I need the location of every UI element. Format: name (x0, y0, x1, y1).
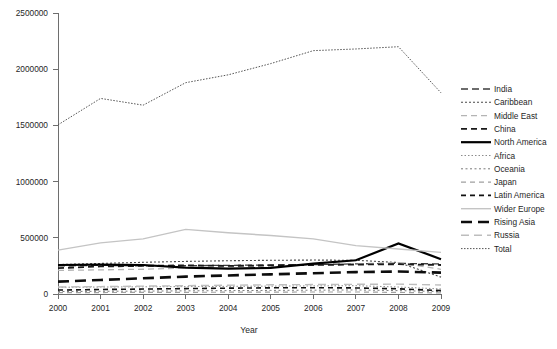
y-tick-label: 2000000 (16, 64, 49, 74)
legend-item-russia[interactable]: Russia (461, 230, 520, 240)
x-tick-label: 2001 (91, 303, 110, 313)
y-tick-label: 0 (43, 289, 48, 299)
legend-label: Caribbean (494, 97, 533, 107)
legend-item-rising-asia[interactable]: Rising Asia (461, 217, 535, 227)
y-tick-label: 2500000 (16, 8, 49, 18)
x-tick-label: 2007 (347, 303, 366, 313)
x-tick-label: 2000 (49, 303, 68, 313)
legend-label: India (494, 84, 512, 94)
y-axis: 05000001000000150000020000002500000 (16, 8, 58, 299)
x-tick-label: 2002 (134, 303, 153, 313)
x-tick-label: 2008 (389, 303, 408, 313)
legend-label: Oceania (494, 164, 525, 174)
series-line-total (58, 47, 441, 125)
chart-container: 05000001000000150000020000002500000 2000… (0, 0, 557, 349)
legend-label: Africa (494, 151, 516, 161)
y-tick-group: 05000001000000150000020000002500000 (16, 8, 58, 299)
x-axis: 2000200120022003200420052006200720082009 (49, 294, 451, 313)
legend-label: North America (494, 137, 547, 147)
legend-item-oceania[interactable]: Oceania (461, 164, 525, 174)
legend-item-wider-europe[interactable]: Wider Europe (461, 204, 545, 214)
x-tick-group: 2000200120022003200420052006200720082009 (49, 294, 451, 313)
series-line-oceania (58, 290, 441, 292)
line-chart: 05000001000000150000020000002500000 2000… (0, 0, 557, 349)
legend-item-china[interactable]: China (461, 124, 516, 134)
y-tick-label: 500000 (20, 233, 48, 243)
series-group (58, 47, 441, 293)
legend-label: Japan (494, 177, 517, 187)
series-line-rising-asia (58, 272, 441, 282)
x-tick-label: 2003 (176, 303, 195, 313)
legend-item-latin-america[interactable]: Latin America (461, 190, 545, 200)
legend-item-india[interactable]: India (461, 84, 512, 94)
legend-item-total[interactable]: Total (461, 244, 512, 254)
y-tick-label: 1000000 (16, 177, 49, 187)
legend-item-north-america[interactable]: North America (461, 137, 547, 147)
legend-label: Russia (494, 230, 520, 240)
legend-label: Total (494, 244, 512, 254)
x-tick-label: 2004 (219, 303, 238, 313)
legend-label: Middle East (494, 111, 538, 121)
x-axis-title: Year (240, 325, 258, 335)
series-line-japan (58, 292, 441, 293)
y-tick-label: 1500000 (16, 120, 49, 130)
legend-label: Rising Asia (494, 217, 535, 227)
legend-label: China (494, 124, 516, 134)
legend-item-japan[interactable]: Japan (461, 177, 517, 187)
x-tick-label: 2005 (262, 303, 281, 313)
legend: IndiaCaribbeanMiddle EastChinaNorth Amer… (461, 84, 547, 254)
x-tick-label: 2009 (432, 303, 451, 313)
legend-item-africa[interactable]: Africa (461, 151, 516, 161)
x-tick-label: 2006 (304, 303, 323, 313)
legend-label: Latin America (494, 190, 545, 200)
legend-item-middle-east[interactable]: Middle East (461, 111, 538, 121)
legend-item-caribbean[interactable]: Caribbean (461, 97, 533, 107)
legend-label: Wider Europe (494, 204, 545, 214)
